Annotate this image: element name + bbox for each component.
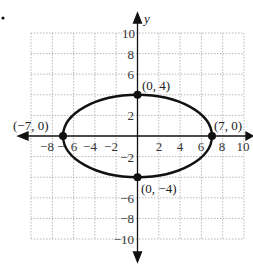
x-tick: −2 bbox=[104, 139, 118, 154]
x-tick: 2 bbox=[156, 139, 163, 154]
x-tick-labels: −8 − 6 −4 −2 2 4 6 8 10 bbox=[40, 139, 249, 154]
point-left-label: (−7, 0) bbox=[13, 118, 49, 133]
point-top-label: (0, 4) bbox=[142, 78, 170, 93]
y-axis-down-arrow-icon bbox=[134, 252, 142, 262]
bullet-dot bbox=[1, 16, 4, 19]
x-tick: 6 bbox=[198, 139, 205, 154]
y-tick: 8 bbox=[128, 47, 135, 62]
point-bottom bbox=[134, 173, 142, 181]
x-tick: 6 bbox=[71, 139, 78, 154]
point-bottom-label: (0, −4) bbox=[141, 181, 177, 196]
y-tick: 6 bbox=[128, 67, 135, 82]
x-tick: 8 bbox=[219, 139, 226, 154]
y-axis-label: y bbox=[142, 11, 150, 26]
y-tick: −8 bbox=[120, 211, 134, 226]
x-tick: −8 bbox=[40, 139, 54, 154]
ellipse-graph: y (0, 4) (−7, 0) (7, 0) (0, −4) 10 8 6 2… bbox=[0, 0, 253, 271]
point-right bbox=[208, 132, 216, 140]
point-right-label: (7, 0) bbox=[214, 118, 242, 133]
x-axis-left-arrow-icon bbox=[18, 132, 28, 140]
y-tick: −6 bbox=[120, 191, 134, 206]
y-tick: −10 bbox=[114, 232, 134, 247]
y-axis-up-arrow-icon bbox=[134, 13, 142, 23]
y-tick: 10 bbox=[122, 26, 135, 41]
x-tick: 10 bbox=[237, 139, 250, 154]
x-tick: 4 bbox=[177, 139, 184, 154]
axes bbox=[18, 13, 253, 262]
x-tick: −4 bbox=[83, 139, 97, 154]
point-top bbox=[134, 91, 142, 99]
y-tick: 2 bbox=[128, 108, 135, 123]
x-tick-dash: − bbox=[57, 139, 64, 154]
y-tick: −2 bbox=[120, 150, 134, 165]
